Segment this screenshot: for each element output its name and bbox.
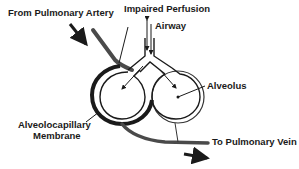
alveolus-left: [100, 70, 145, 119]
label-alveolus: Alveolus: [207, 80, 247, 91]
impaired-perfusion-diagram: From Pulmonary Artery Impaired Perfusion…: [0, 0, 299, 169]
capillary-left: [92, 66, 152, 124]
outflow-arrow-icon: [184, 154, 207, 158]
label-airway: Airway: [155, 20, 187, 31]
label-membrane-line2: Membrane: [33, 130, 81, 141]
airway: [128, 38, 172, 74]
pulmonary-vein-vessel: [122, 124, 208, 143]
leader-membrane: [86, 112, 99, 122]
label-from-pulmonary-artery: From Pulmonary Artery: [8, 7, 114, 18]
inflow-arrow-icon: [70, 24, 86, 44]
leader-alveolus: [178, 86, 205, 97]
label-to-pulmonary-vein: To Pulmonary Vein: [212, 136, 297, 147]
leader-impaired-perfusion: [119, 27, 128, 63]
label-impaired-perfusion: Impaired Perfusion: [124, 3, 210, 14]
label-membrane-line1: Alveolocapillary: [18, 119, 92, 130]
airflow-arrow-icon: [147, 20, 151, 54]
